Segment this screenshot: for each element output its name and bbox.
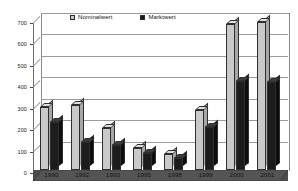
x-axis-label: 1990 xyxy=(36,172,66,178)
bar-group xyxy=(226,20,248,170)
bar-face xyxy=(174,158,183,170)
bar-group xyxy=(257,20,279,170)
x-axis-label: 1993 xyxy=(98,172,128,178)
bar-side xyxy=(59,115,63,166)
bar-group xyxy=(133,20,155,170)
x-axis-label: 1992 xyxy=(67,172,97,178)
y-axis-tick-label: 100 xyxy=(1,149,27,155)
bar-group xyxy=(195,20,217,170)
bar-side xyxy=(214,120,218,166)
y-axis-tick-label: 600 xyxy=(1,41,27,47)
bar-marktwert xyxy=(143,153,152,170)
x-axis-label: 1998 xyxy=(160,172,190,178)
plot-area: 0100200300400500600700 xyxy=(33,10,288,170)
legend-label-marktwert: Marktwert xyxy=(148,14,175,20)
legend-item-marktwert: Marktwert xyxy=(140,14,175,20)
bar-marktwert xyxy=(267,82,276,170)
bar-marktwert xyxy=(205,127,214,170)
y-axis-tick-label: 400 xyxy=(1,84,27,90)
x-axis-label: 1999 xyxy=(191,172,221,178)
bar-marktwert xyxy=(174,158,183,170)
bar-marktwert xyxy=(236,81,245,170)
bar-side xyxy=(245,74,249,166)
bar-nominalwert xyxy=(133,148,142,171)
bar-chart: 0100200300400500600700 Nominalwert Markt… xyxy=(0,0,298,191)
bar-nominalwert xyxy=(40,107,49,170)
chart-legend: Nominalwert Marktwert xyxy=(70,14,176,20)
y-axis-tick-label: 0 xyxy=(1,170,27,176)
bar-face xyxy=(112,145,121,170)
bar-group xyxy=(71,20,93,170)
bar-face xyxy=(102,128,111,170)
bar-face xyxy=(133,148,142,171)
bar-nominalwert xyxy=(164,154,173,170)
bar-face xyxy=(195,110,204,170)
legend-item-nominalwert: Nominalwert xyxy=(70,14,112,20)
legend-swatch-icon xyxy=(70,15,75,20)
y-axis-tick-label: 200 xyxy=(1,127,27,133)
bar-face xyxy=(267,82,276,170)
bar-side xyxy=(276,75,280,166)
x-axis-label: 2001 xyxy=(253,172,283,178)
bar-nominalwert xyxy=(195,110,204,170)
bar-face xyxy=(81,142,90,170)
bar-face xyxy=(236,81,245,170)
bar-marktwert xyxy=(112,145,121,170)
bar-group xyxy=(102,20,124,170)
bar-nominalwert xyxy=(102,128,111,170)
legend-label-nominalwert: Nominalwert xyxy=(78,14,112,20)
bar-face xyxy=(205,127,214,170)
bar-marktwert xyxy=(81,142,90,170)
y-axis-tick-label: 300 xyxy=(1,106,27,112)
legend-swatch-icon xyxy=(140,15,145,20)
bar-marktwert xyxy=(50,122,59,170)
bar-group xyxy=(40,20,62,170)
bars-layer xyxy=(33,10,288,181)
x-axis-labels: 19901992199319951998199920002001 xyxy=(33,172,288,186)
bar-nominalwert xyxy=(71,105,80,170)
y-axis-tick-label: 700 xyxy=(1,20,27,26)
bar-face xyxy=(257,22,266,170)
bar-face xyxy=(40,107,49,170)
bar-face xyxy=(71,105,80,170)
bar-face xyxy=(143,153,152,170)
y-axis-tick-label: 500 xyxy=(1,63,27,69)
x-axis-label: 1995 xyxy=(129,172,159,178)
bar-group xyxy=(164,20,186,170)
bar-face xyxy=(164,154,173,170)
bar-nominalwert xyxy=(257,22,266,170)
bar-face xyxy=(226,24,235,170)
bar-nominalwert xyxy=(226,24,235,170)
bar-face xyxy=(50,122,59,170)
x-axis-label: 2000 xyxy=(222,172,252,178)
